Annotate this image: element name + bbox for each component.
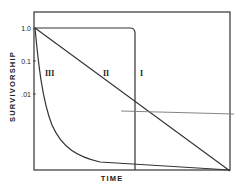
curve-I-label: I <box>140 69 143 78</box>
reference-line <box>121 111 234 114</box>
y-tick-0-01: .01 <box>21 91 31 98</box>
survivorship-chart: 1.0 0.1 .01 SURVIVORSHIP TIME III II I <box>0 0 237 190</box>
plot-frame <box>34 12 230 170</box>
y-axis-label: SURVIVORSHIP <box>8 51 17 122</box>
curve-II-label: II <box>103 69 109 78</box>
curve-I <box>35 28 135 170</box>
curve-III-label: III <box>45 69 54 78</box>
x-axis-label: TIME <box>101 174 124 183</box>
y-tick-1: 1.0 <box>21 25 31 32</box>
y-tick-0-1: 0.1 <box>21 58 31 65</box>
curve-II <box>35 28 230 171</box>
